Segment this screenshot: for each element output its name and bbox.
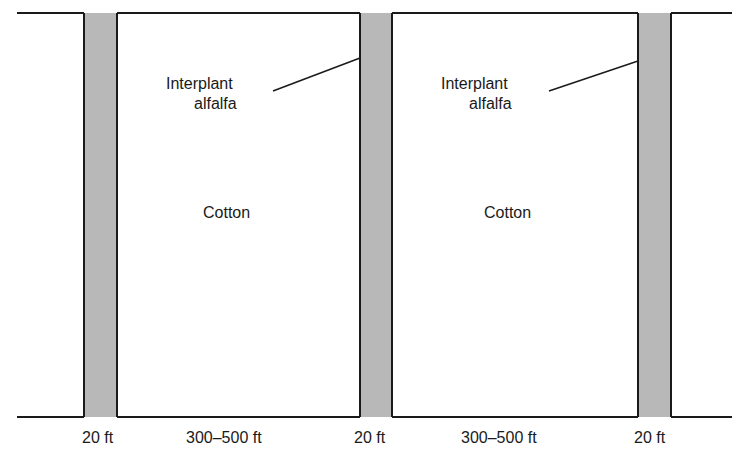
callout-leader-2 — [549, 61, 638, 91]
strip-2-width: 20 ft — [354, 429, 386, 446]
field-2-label: Cotton — [484, 204, 531, 221]
callout-2-line2: alfalfa — [469, 95, 512, 112]
strip-cropping-diagram: Interplant alfalfa Interplant alfalfa Co… — [0, 0, 749, 461]
callout-2-line1: Interplant — [441, 75, 508, 92]
strip-3-width: 20 ft — [634, 429, 666, 446]
field-1-label: Cotton — [203, 204, 250, 221]
callout-1-line2: alfalfa — [194, 95, 237, 112]
alfalfa-strip-2 — [360, 13, 392, 417]
strip-1-width: 20 ft — [82, 429, 114, 446]
field-1-width: 300–500 ft — [186, 429, 262, 446]
callout-leader-1 — [273, 58, 360, 91]
alfalfa-strip-1 — [84, 13, 117, 417]
alfalfa-strip-3 — [638, 13, 671, 417]
callout-1-line1: Interplant — [166, 75, 233, 92]
field-2-width: 300–500 ft — [461, 429, 537, 446]
